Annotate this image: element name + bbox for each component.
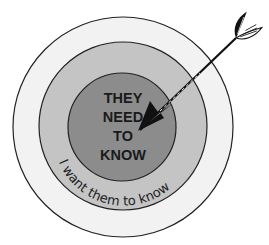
center-label-line3: TO: [113, 128, 133, 144]
center-label-line1: THEY: [104, 90, 143, 106]
center-label-line4: KNOW: [100, 147, 146, 163]
center-label-line2: NEED: [103, 109, 143, 125]
target-diagram: THEY NEED TO KNOW I want them to know: [0, 0, 269, 245]
